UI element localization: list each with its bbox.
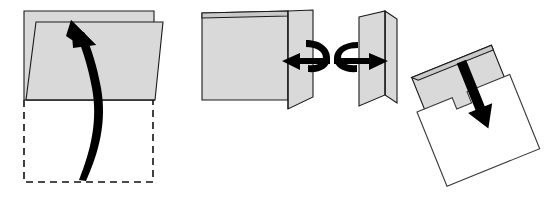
main-panel-face [202,11,288,100]
step-3-fold-panel-closed [334,11,397,106]
folding-instruction-diagram [0,0,544,197]
back-panel-face [385,11,397,103]
step-1-fold-bottom-flap-up [24,11,163,182]
step-4-insert-into-pocket [404,43,539,186]
step-2-fold-right-panel-left [202,10,330,109]
diagram-canvas [0,0,544,197]
